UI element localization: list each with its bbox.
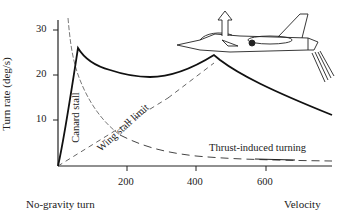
thrust-turning-label: Thrust-induced turning <box>209 142 306 153</box>
y-tick-30: 30 <box>36 23 47 34</box>
y-tick-10: 10 <box>36 113 47 124</box>
x-tick-200: 200 <box>118 176 134 187</box>
y-tick-20: 20 <box>36 68 47 79</box>
x-tick-400: 400 <box>187 176 203 187</box>
chart-canvas <box>0 0 345 219</box>
x-axis-label: Velocity <box>284 198 321 210</box>
x-axis-label-left: No-gravity turn <box>26 198 95 210</box>
y-axis-label: Turn rate (deg/s) <box>0 57 12 131</box>
x-tick-600: 600 <box>257 176 273 187</box>
aircraft-illustration <box>177 11 334 82</box>
canard-stall-label: Canard stall <box>70 92 81 142</box>
